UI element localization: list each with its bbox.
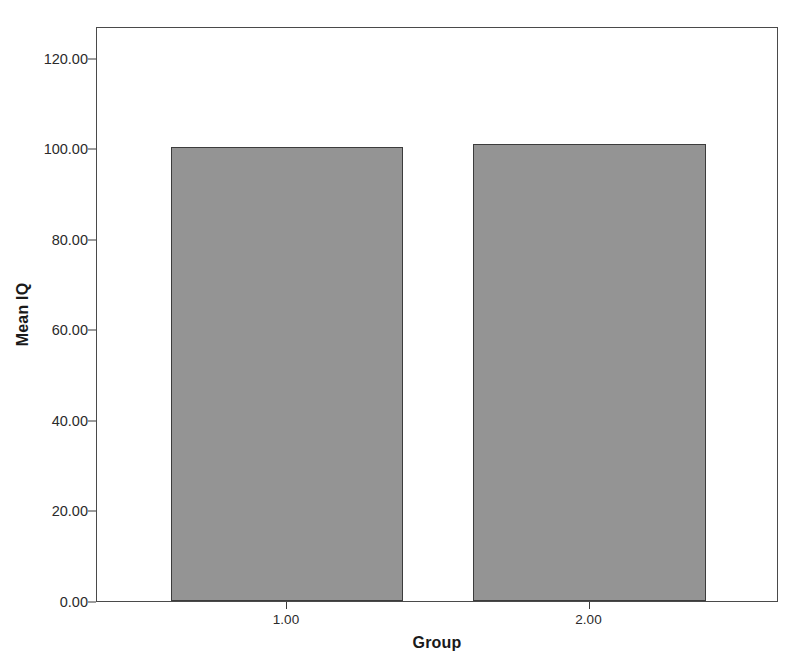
plot-area <box>96 27 778 602</box>
y-tick-mark <box>88 239 96 240</box>
x-tick-label: 2.00 <box>575 612 601 627</box>
y-tick-label: 100.00 <box>0 141 88 157</box>
y-tick-label: 20.00 <box>0 503 88 519</box>
bar-chart: Mean IQ 0.0020.0040.0060.0080.00100.0012… <box>0 0 797 664</box>
y-tick-mark <box>88 602 96 603</box>
y-tick-label: 0.00 <box>0 594 88 610</box>
y-tick-label: 40.00 <box>0 413 88 429</box>
y-tick-mark <box>88 149 96 150</box>
y-tick-mark <box>88 330 96 331</box>
x-tick-mark <box>286 602 287 609</box>
x-axis-title: Group <box>96 634 778 652</box>
x-tick-label: 1.00 <box>273 612 299 627</box>
x-tick-mark <box>589 602 590 609</box>
bar <box>473 144 706 601</box>
y-tick-mark <box>88 511 96 512</box>
y-tick-mark <box>88 58 96 59</box>
y-tick-label: 120.00 <box>0 51 88 67</box>
y-tick-label: 60.00 <box>0 322 88 338</box>
bar <box>171 147 403 601</box>
y-tick-label: 80.00 <box>0 232 88 248</box>
y-tick-mark <box>88 420 96 421</box>
